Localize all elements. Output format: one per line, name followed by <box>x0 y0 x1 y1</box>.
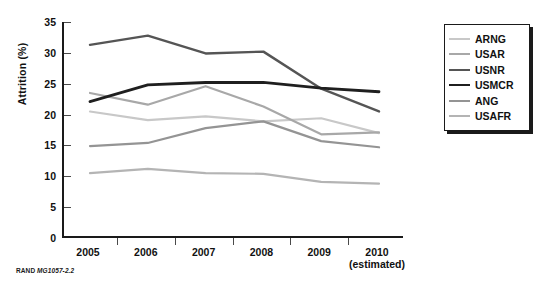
y-axis-tick-label: 0 <box>30 233 56 244</box>
legend: ARNGUSARUSNRUSMCRANGUSAFR <box>444 24 530 131</box>
y-axis-tick-label: 20 <box>30 110 56 121</box>
y-axis-tick-label: 15 <box>30 140 56 151</box>
x-axis-tick-label: 2010(estimated) <box>347 246 407 270</box>
legend-item-label: USMCR <box>475 80 514 91</box>
legend-swatch-icon <box>449 53 470 55</box>
legend-item-ang: ANG <box>449 93 524 109</box>
y-axis-tick <box>64 207 71 208</box>
series-line-usmcr <box>90 82 379 101</box>
legend-swatch-icon <box>449 84 470 86</box>
y-axis-tick <box>64 176 71 177</box>
series-line-usnr <box>90 36 379 112</box>
legend-swatch-icon <box>449 69 470 71</box>
legend-item-arng: ARNG <box>449 31 524 47</box>
data-series-lines <box>64 22 405 238</box>
legend-item-usmcr: USMCR <box>449 78 524 94</box>
series-line-arng <box>90 111 379 133</box>
y-axis-tick <box>64 22 71 23</box>
y-axis-tick <box>64 84 71 85</box>
y-axis-tick <box>64 145 71 146</box>
x-axis-tick-sublabel: (estimated) <box>347 258 407 270</box>
y-axis-tick <box>64 115 71 116</box>
y-axis-tick-label: 5 <box>30 202 56 213</box>
x-axis-tick-label: 2006 <box>116 246 176 258</box>
x-axis-tick-label: 2005 <box>58 246 118 258</box>
caption-code: MG1057-2.2 <box>37 267 74 274</box>
x-axis-tick <box>117 238 118 245</box>
caption-org: RAND <box>16 267 35 274</box>
legend-swatch-icon <box>449 100 470 102</box>
legend-swatch-icon <box>449 38 470 40</box>
x-axis-tick-label: 2008 <box>231 246 291 258</box>
y-axis-tick-label: 10 <box>30 171 56 182</box>
legend-item-label: ANG <box>475 96 498 107</box>
y-axis-tick-label: 25 <box>30 79 56 90</box>
legend-item-label: USAFR <box>475 111 511 122</box>
x-axis-tick <box>290 238 291 245</box>
legend-swatch-icon <box>449 115 470 117</box>
legend-item-label: USNR <box>475 65 505 76</box>
series-line-usafr <box>90 169 379 184</box>
legend-item-label: USAR <box>475 49 505 60</box>
y-axis-title: Attrition (%) <box>16 14 28 134</box>
y-axis-tick <box>64 53 71 54</box>
attrition-line-chart-figure: 05101520253035 Attrition (%) 20052006200… <box>0 0 545 290</box>
x-axis-tick <box>348 238 349 245</box>
legend-item-usafr: USAFR <box>449 109 524 125</box>
x-axis-tick <box>175 238 176 245</box>
y-axis-tick-label: 30 <box>30 48 56 59</box>
legend-item-usar: USAR <box>449 47 524 63</box>
figure-caption: RAND MG1057-2.2 <box>16 267 74 274</box>
plot-area <box>62 22 403 238</box>
y-axis-tick-label: 35 <box>30 17 56 28</box>
x-axis-tick-label: 2009 <box>289 246 349 258</box>
legend-item-label: ARNG <box>475 34 506 45</box>
x-axis-tick <box>233 238 234 245</box>
x-axis-tick-label: 2007 <box>174 246 234 258</box>
legend-item-usnr: USNR <box>449 62 524 78</box>
